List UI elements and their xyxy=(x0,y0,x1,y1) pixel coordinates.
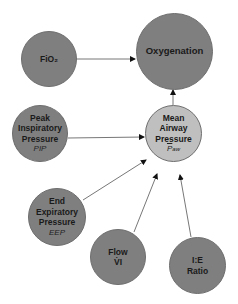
node-mean-airway-pressure: Mean Airway Pressure Paw xyxy=(145,105,202,162)
node-pip-symbol: PIP xyxy=(34,144,47,154)
node-eep-line-2: Expiratory xyxy=(36,207,78,218)
node-fio2: FiO₂ xyxy=(21,31,77,87)
edge-ie-maw xyxy=(180,175,191,237)
node-ie-line-2: Ratio xyxy=(187,266,208,277)
node-flow-symbol: V̇I xyxy=(114,257,122,268)
node-maw-line-1: Mean xyxy=(163,113,185,124)
node-maw-symbol-sub: aw xyxy=(172,146,180,152)
node-flow: Flow V̇I xyxy=(90,229,146,285)
node-flow-line-1: Flow xyxy=(108,247,127,258)
node-maw-symbol: Paw xyxy=(167,144,180,154)
node-maw-line-3: Pressure xyxy=(155,134,191,145)
node-ie-ratio: I:E Ratio xyxy=(169,237,226,294)
node-ie-line-1: I:E xyxy=(192,255,203,266)
edge-eep-maw xyxy=(83,160,146,200)
node-pip-line-1: Peak xyxy=(30,113,50,124)
node-maw-line-2: Airway xyxy=(160,123,188,134)
node-eep-symbol: EEP xyxy=(49,228,65,238)
node-pip: Peak Inspiratory Pressure PIP xyxy=(12,105,68,162)
node-oxygenation: Oxygenation xyxy=(136,13,213,90)
node-eep-line-1: End xyxy=(49,196,65,207)
node-oxygenation-label: Oxygenation xyxy=(146,46,204,57)
edge-pip-maw xyxy=(68,137,144,138)
edge-flow-maw xyxy=(134,174,157,232)
node-pip-line-2: Inspiratory xyxy=(18,123,62,134)
node-fio2-label: FiO₂ xyxy=(40,54,58,65)
node-pip-line-3: Pressure xyxy=(22,134,58,145)
node-eep: End Expiratory Pressure EEP xyxy=(28,188,86,246)
node-eep-line-3: Pressure xyxy=(39,217,75,228)
